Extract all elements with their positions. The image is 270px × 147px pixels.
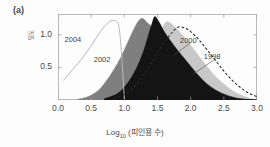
x-tick-label: 0.5 [78,103,104,113]
annotation-1998: 1998 [204,52,221,61]
x-tick-label: 2.5 [211,103,237,113]
x-axis-label-suffix: (피인용 수) [126,128,164,137]
y-tick-label: 1.0 [0,29,52,39]
chart-plot-area [58,14,257,100]
x-tick-label: 3.0 [244,103,270,113]
annotation-2000: 2000 [180,36,197,45]
annotation-2004: 2004 [65,35,82,44]
x-tick-label: 2.0 [178,103,204,113]
x-tick-label: 0.0 [45,103,71,113]
annotation-2002: 2002 [94,55,111,64]
x-tick-label: 1.5 [145,103,171,113]
x-axis-label: Log10 (피인용 수) [0,126,270,139]
x-tick-label: 1.0 [111,103,137,113]
panel-label: (a) [13,5,24,15]
x-axis-label-prefix: Log [106,128,119,137]
y-tick-label: 0.5 [0,61,52,71]
figure-panel: (a) 밀도 0.51.0 0.00.51.01.52.02.53.0 2004… [0,0,270,147]
